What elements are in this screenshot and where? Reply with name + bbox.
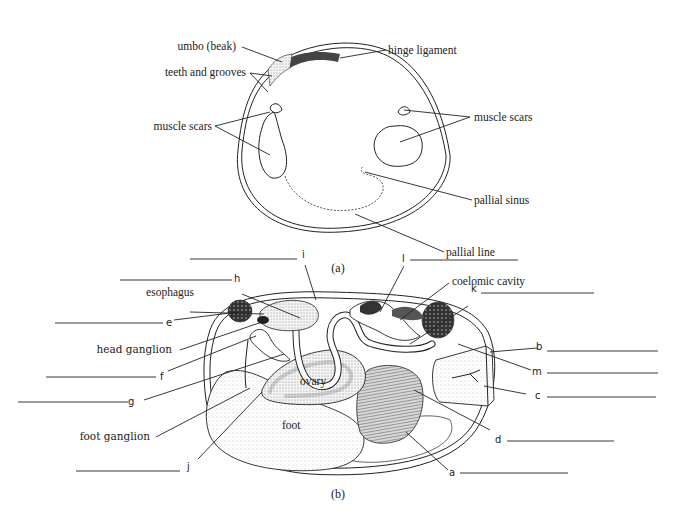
- caption-a: (a): [331, 261, 344, 275]
- right-muscle-scar: [374, 126, 422, 167]
- letter-g: g: [128, 396, 134, 407]
- left-muscle-scar: [259, 112, 287, 178]
- letter-e: e: [166, 317, 172, 328]
- labial-palp: [250, 329, 290, 361]
- letter-f: f: [160, 371, 164, 382]
- label-muscle-scars-left: muscle scars: [154, 120, 213, 132]
- letter-c: c: [535, 390, 541, 401]
- label-esophagus: esophagus: [146, 286, 194, 299]
- label-hinge-ligament: hinge ligament: [388, 44, 457, 57]
- letter-b: b: [536, 341, 542, 352]
- clam-anatomy-diagram: umbo (beak) teeth and grooves hinge liga…: [0, 0, 686, 518]
- label-head-ganglion: head ganglion: [96, 343, 172, 355]
- umbo-shape: [268, 54, 292, 86]
- label-ovary: ovary: [300, 375, 326, 388]
- left-small-scar: [270, 104, 282, 113]
- letter-l: l: [402, 253, 405, 264]
- label-teeth-and-grooves: teeth and grooves: [165, 66, 247, 79]
- label-coelomic-cavity: coelomic cavity: [452, 275, 525, 288]
- internal-anatomy-figure: i h e f g j l k b m c d a esophagus coel…: [18, 249, 658, 501]
- letter-m: m: [532, 366, 542, 377]
- letter-a: a: [449, 467, 455, 478]
- letter-d: d: [495, 434, 501, 445]
- letter-h: h: [234, 273, 240, 284]
- letter-i: i: [302, 249, 305, 260]
- letter-j: j: [186, 461, 190, 472]
- label-foot-ganglion: foot ganglion: [80, 430, 151, 442]
- caption-b: (b): [331, 487, 345, 501]
- label-muscle-scars-right: muscle scars: [474, 111, 533, 123]
- label-pallial-sinus: pallial sinus: [474, 194, 530, 207]
- label-foot: foot: [282, 419, 301, 431]
- shell-valve-figure: umbo (beak) teeth and grooves hinge liga…: [154, 40, 533, 275]
- label-umbo: umbo (beak): [178, 40, 237, 53]
- label-pallial-line: pallial line: [446, 246, 495, 259]
- anterior-adductor: [228, 300, 252, 322]
